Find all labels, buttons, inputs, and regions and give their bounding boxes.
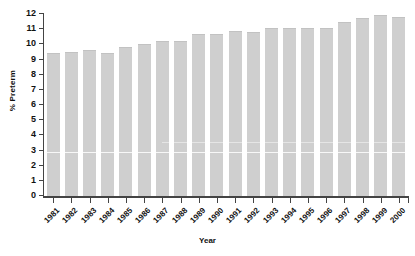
bar-1984 xyxy=(101,53,114,196)
y-tick-label: 2 xyxy=(31,160,36,171)
x-tick-mark-1983 xyxy=(90,198,91,203)
preterm-birth-bar-chart: % Preterm 0123456789101112 1981198219831… xyxy=(0,0,415,256)
x-tick-mark-1990 xyxy=(217,198,218,203)
x-tick-mark-1986 xyxy=(144,198,145,203)
bar-1987 xyxy=(156,41,169,196)
y-tick-label: 3 xyxy=(31,145,36,156)
x-tick-mark-1988 xyxy=(181,198,182,203)
bar-2000 xyxy=(392,17,405,196)
y-tick-label: 12 xyxy=(26,8,36,19)
x-tick-mark-1999 xyxy=(381,198,382,203)
y-tick-label: 0 xyxy=(31,190,36,201)
x-tick-mark-1982 xyxy=(71,198,72,203)
bar-1990 xyxy=(210,34,223,196)
bar-1981 xyxy=(47,53,60,196)
x-tick-mark-1989 xyxy=(199,198,200,203)
y-tick-label: 10 xyxy=(26,38,36,49)
x-tick-mark-1992 xyxy=(253,198,254,203)
y-tick-label: 9 xyxy=(31,54,36,65)
bar-1994 xyxy=(283,28,296,196)
y-tick-label: 11 xyxy=(26,23,36,34)
bar-1985 xyxy=(119,47,132,196)
x-tick-mark-1991 xyxy=(235,198,236,203)
bar-1996 xyxy=(320,28,333,196)
bar-series xyxy=(44,14,408,196)
x-tick-mark-1984 xyxy=(108,198,109,203)
x-tick-mark-1998 xyxy=(363,198,364,203)
y-tick-label: 6 xyxy=(31,99,36,110)
y-tick-label: 5 xyxy=(31,114,36,125)
bar-1989 xyxy=(192,34,205,196)
bar-1983 xyxy=(83,50,96,196)
x-tick-mark-1996 xyxy=(326,198,327,203)
y-axis-title: % Preterm xyxy=(8,41,17,141)
x-tick-mark-2000 xyxy=(399,198,400,203)
x-tick-mark-1995 xyxy=(308,198,309,203)
x-tick-mark-1987 xyxy=(162,198,163,203)
x-tick-mark-1993 xyxy=(272,198,273,203)
y-tick-label: 7 xyxy=(31,84,36,95)
x-axis-title: Year xyxy=(0,236,415,245)
x-axis-line xyxy=(43,196,409,198)
bar-1998 xyxy=(356,18,369,196)
bar-1986 xyxy=(138,44,151,196)
bar-1988 xyxy=(174,41,187,196)
x-tick-mark-1981 xyxy=(53,198,54,203)
bar-1995 xyxy=(301,28,314,196)
y-tick-label: 8 xyxy=(31,69,36,80)
y-tick-label: 4 xyxy=(31,129,36,140)
bar-1993 xyxy=(265,28,278,196)
bar-1997 xyxy=(338,22,351,196)
x-tick-mark-1985 xyxy=(126,198,127,203)
x-tick-mark-1994 xyxy=(290,198,291,203)
x-tick-mark-1997 xyxy=(344,198,345,203)
bar-1991 xyxy=(229,31,242,196)
bar-1982 xyxy=(65,52,78,196)
x-axis-end-mark xyxy=(408,198,409,203)
bar-1999 xyxy=(374,15,387,196)
y-tick-label: 1 xyxy=(31,175,36,186)
bar-1992 xyxy=(247,32,260,196)
